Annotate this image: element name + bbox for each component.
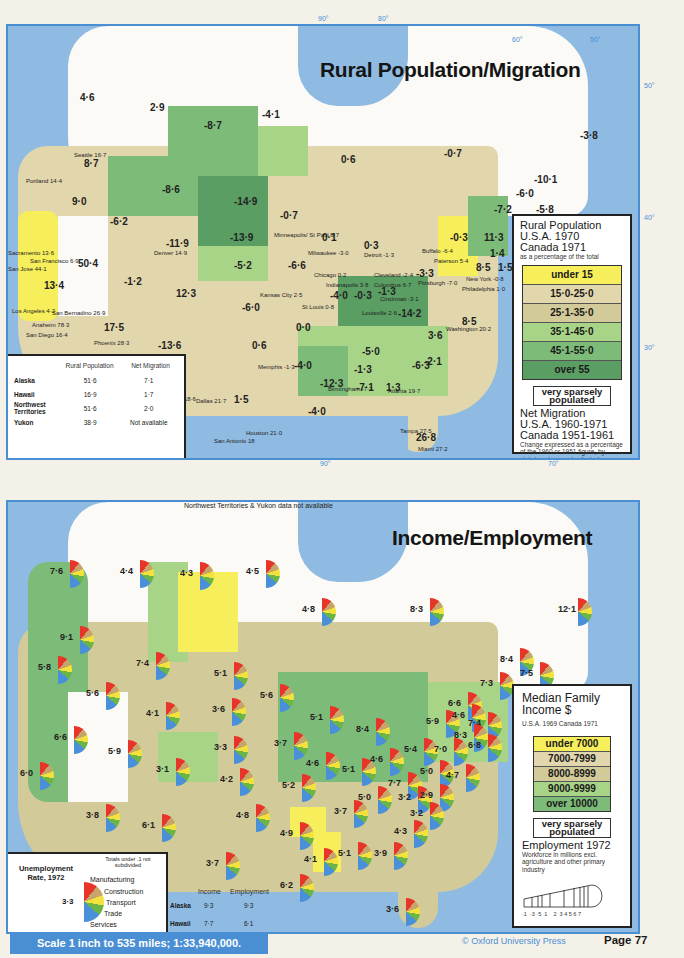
bottom-90-label: 90°: [320, 460, 331, 467]
employment-pie: [156, 652, 170, 680]
unemployment-rate: 12·1: [558, 604, 576, 614]
unemployment-rate: 4·1: [304, 854, 317, 864]
table-cell: 2·0: [119, 405, 178, 412]
employment-pie: [358, 842, 372, 870]
class-8000-8999: 8000-8999: [534, 767, 610, 782]
employment-pie: [294, 732, 308, 760]
region-value: 4·6: [80, 92, 94, 103]
lat-40-label: 40°: [644, 214, 655, 221]
region-value: 1·4: [490, 248, 504, 259]
employment-pie: [394, 842, 408, 870]
region-value: -5·2: [234, 260, 252, 271]
key-sample-pie: [84, 882, 104, 922]
class-over-55: over 55: [523, 361, 621, 379]
employment-pie: [58, 656, 72, 684]
region-manitoba: [258, 126, 308, 176]
region-value: -3·8: [580, 130, 598, 141]
unemployment-rate: 7·0: [434, 744, 447, 754]
unemployment-rate: 4·6: [452, 710, 465, 720]
migration-note: Change expressed as a percentage of the …: [520, 441, 624, 461]
income-legend-subtitle: U.S.A. 1969 Canada 1971: [522, 720, 622, 728]
lon-90-label: 90°: [318, 15, 329, 22]
city-label: Seattle 16·7: [74, 152, 106, 158]
class-15-25: 15·0-25·0: [523, 285, 621, 304]
region-value: -13·9: [230, 232, 253, 243]
region-value: -11·9: [166, 238, 189, 249]
unemployment-rate: 4·6: [306, 758, 319, 768]
unemployment-rate: 4·6: [370, 754, 383, 764]
table-cell: 51·6: [61, 405, 120, 412]
region-value: 9·0: [72, 196, 86, 207]
employment-pie: [406, 898, 420, 926]
page-number: Page 77: [604, 934, 647, 946]
employment-pie: [454, 738, 468, 766]
city-label: Kansas City 2·5: [260, 292, 302, 298]
unemployment-rate: 6·8: [468, 740, 481, 750]
migration-title-3: Canada 1951-1961: [520, 430, 624, 441]
employment-pie: [430, 802, 444, 830]
employment-title: Employment 1972: [522, 840, 622, 851]
lon-60-label: 60°: [512, 36, 523, 43]
region-nebraska: [198, 246, 268, 281]
city-label: Washington 20·2: [446, 326, 491, 332]
lat-50-label: 50°: [644, 82, 655, 89]
city-label: Pittsburgh -7·0: [418, 280, 457, 286]
city-label: St Louis 0·8: [302, 304, 334, 310]
inset-hawaii-employment: 6·1: [244, 920, 253, 927]
region-value: 0·6: [341, 154, 355, 165]
employment-pie: [80, 626, 94, 654]
unemployment-rate: 7·6: [50, 566, 63, 576]
bottom-70-label: 70°: [548, 460, 559, 467]
table-cell: Alaska: [14, 377, 61, 384]
region-value: -4·0: [294, 360, 312, 371]
city-label: San Diego 16·4: [26, 332, 68, 338]
rural-population-legend: Rural Population U.S.A. 1970 Canada 1971…: [512, 214, 632, 454]
employment-pie: [322, 598, 336, 626]
map1-title: Rural Population/Migration: [320, 58, 581, 82]
unemployment-rate: 5·4: [404, 744, 417, 754]
city-label: Columbus 6·7: [374, 282, 411, 288]
employment-pie: [226, 852, 240, 880]
employment-pie: [300, 874, 314, 902]
lon-50-label: 50°: [590, 36, 601, 43]
region-value: -4·0: [330, 290, 348, 301]
inset-alaska-income: 9·3: [204, 902, 213, 909]
employment-pie: [300, 822, 314, 850]
key-sector-construction: Construction: [104, 888, 143, 895]
region-value: 1·5: [498, 262, 512, 273]
key-sector-trade: Trade: [104, 910, 122, 917]
lat-30-label: 30°: [644, 344, 655, 351]
unemployment-rate: 3·8: [86, 810, 99, 820]
employment-pie: [376, 718, 390, 746]
city-label: Atlanta 19·7: [388, 388, 420, 394]
unemployment-rate: 9·1: [60, 632, 73, 642]
scale-bar: Scale 1 inch to 535 miles; 1:33,940,000.: [10, 932, 268, 954]
unemployment-rate: 3·1: [156, 764, 169, 774]
table-header-rural: Rural Population: [58, 362, 121, 369]
region-value: -6·2: [110, 216, 128, 227]
table-cell: Not available: [119, 419, 178, 426]
region-value: 8·5: [476, 262, 490, 273]
key-note: Totals under .1 not subdivided: [98, 856, 158, 868]
class-45-55: 45·1-55·0: [523, 342, 621, 361]
region-value: -6·6: [288, 260, 306, 271]
employment-pie: [330, 706, 344, 734]
unemployment-rate: 4·7: [446, 770, 459, 780]
city-label: Indianapolis 3·8: [326, 282, 368, 288]
employment-scale-ticks: ·1 ·3 ·5 1 2 3 4 5 6 7: [522, 911, 622, 919]
region-value: -4·1: [262, 109, 280, 120]
city-label: Milwaukee -3·0: [308, 250, 349, 256]
map2-title: Income/Employment: [392, 526, 592, 550]
city-label: Miami 27·2: [418, 446, 448, 452]
city-label: Los Angeles 4·2: [12, 308, 55, 314]
employment-pie: [200, 562, 214, 590]
unemployment-rate: 3·2: [398, 792, 411, 802]
city-label: Philadelphia 1·0: [462, 286, 505, 292]
unemployment-rate: 6·6: [448, 698, 461, 708]
legend-subtitle: as a percentage of the total: [520, 253, 624, 261]
employment-pie: [234, 736, 248, 764]
table-cell: Yukon: [14, 419, 61, 426]
region-value: -13·6: [158, 340, 181, 351]
key-sector-transport: Transport: [106, 899, 136, 906]
region-value: 0·3: [364, 240, 378, 251]
